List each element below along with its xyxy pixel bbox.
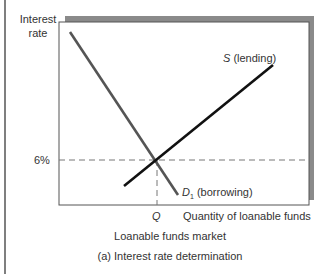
supply-suffix: (lending) bbox=[230, 52, 276, 64]
plot-frame bbox=[59, 22, 309, 205]
frame-shadow-right bbox=[309, 16, 314, 200]
y-axis-label: Interest rate bbox=[18, 12, 58, 40]
demand-label: D1 (borrowing) bbox=[182, 186, 253, 200]
supply-label: S (lending) bbox=[223, 52, 276, 64]
y-axis-label-line2: rate bbox=[18, 26, 58, 40]
y-axis-label-line1: Interest bbox=[18, 12, 58, 26]
demand-suffix: (borrowing) bbox=[194, 186, 253, 198]
demand-symbol: D bbox=[182, 186, 190, 198]
market-label: Loanable funds market bbox=[0, 230, 328, 242]
figure-caption: (a) Interest rate determination bbox=[0, 250, 328, 262]
y-tick-6pct: 6% bbox=[34, 154, 50, 166]
frame-shadow-top bbox=[65, 16, 314, 22]
x-tick-q: Q bbox=[152, 210, 161, 222]
x-axis-label: Quantity of loanable funds bbox=[183, 210, 311, 222]
